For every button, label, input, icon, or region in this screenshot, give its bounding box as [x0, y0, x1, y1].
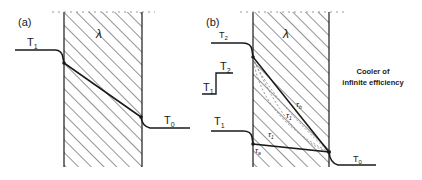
interface-point-a-left: [62, 61, 66, 65]
annotation-line-2: infinite efficiency: [342, 78, 404, 87]
diagram-canvas: (a) λ T1 T0 (b) λ T2 T1: [0, 0, 422, 180]
cold-temp-label-a: T0: [164, 114, 175, 128]
interface-point-a-right: [139, 115, 143, 119]
panel-b: (b) λ T2 T1 T0 T1 T2 τa τ1 τ1 τb Cooler …: [202, 12, 404, 167]
step-high-label: T2: [220, 60, 231, 74]
panel-a-label: (a): [18, 16, 31, 28]
interface-point-b-top: [251, 55, 255, 59]
lambda-symbol-a: λ: [95, 27, 102, 41]
annotation-line-1: Cooler of: [357, 67, 390, 76]
interface-point-b-right: [327, 150, 331, 154]
cold-temp-label-b: T0: [353, 154, 363, 165]
panel-a: (a) λ T1 T0: [15, 12, 190, 167]
hot-temp-label-b: T1: [214, 115, 225, 129]
panel-b-label: (b): [206, 16, 219, 28]
step-low-label: T1: [203, 81, 214, 95]
lambda-symbol-b: λ: [282, 27, 289, 41]
top-temp-label-b: T2: [219, 30, 229, 41]
hot-temp-label-a: T1: [27, 36, 38, 50]
material-slab-b: [253, 12, 329, 167]
